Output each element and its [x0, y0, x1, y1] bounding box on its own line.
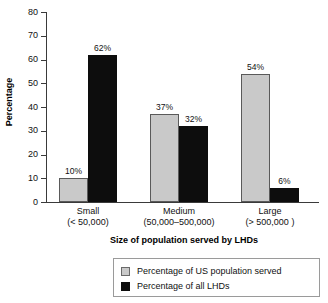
- category-range: (> 500,000 ): [215, 217, 325, 228]
- bar: [179, 126, 208, 202]
- y-axis-tick-label: 10: [0, 174, 38, 183]
- y-axis-tick: [41, 202, 47, 203]
- x-axis-category-label: Large(> 500,000 ): [215, 206, 325, 228]
- bar: [150, 114, 179, 202]
- bar-value-label: 37%: [142, 103, 187, 112]
- y-axis-tick-label: 60: [0, 55, 38, 64]
- legend-label: Percentage of US population served: [137, 266, 282, 276]
- bar-chart-figure: Percentage 01020304050607080 10%62%37%32…: [0, 0, 328, 303]
- y-axis-tick-label: 70: [0, 31, 38, 40]
- legend-swatch-icon: [121, 267, 130, 276]
- legend-swatch-icon: [121, 282, 130, 291]
- y-axis-tick-label: 80: [0, 8, 38, 17]
- y-axis-tick-label: 20: [0, 150, 38, 159]
- y-axis-tick-label: 50: [0, 79, 38, 88]
- legend: Percentage of US population served Perce…: [113, 258, 320, 297]
- bar-value-label: 54%: [233, 63, 278, 72]
- bar-value-label: 6%: [262, 177, 307, 186]
- bar: [59, 178, 88, 202]
- category-name: Large: [215, 206, 325, 217]
- x-axis-title: Size of population served by LHDs: [46, 235, 322, 245]
- bars-layer: 10%62%37%32%54%6%: [47, 12, 319, 202]
- y-axis-tick-label: 30: [0, 126, 38, 135]
- bar-value-label: 62%: [80, 44, 125, 53]
- legend-item-us-population: Percentage of US population served: [121, 264, 282, 278]
- bar-value-label: 32%: [171, 115, 216, 124]
- y-axis-tick-label: 40: [0, 103, 38, 112]
- bar: [88, 55, 117, 202]
- bar: [270, 188, 299, 202]
- legend-item-all-lhds: Percentage of all LHDs: [121, 279, 230, 293]
- legend-label: Percentage of all LHDs: [137, 281, 230, 291]
- x-axis-line: [46, 202, 319, 203]
